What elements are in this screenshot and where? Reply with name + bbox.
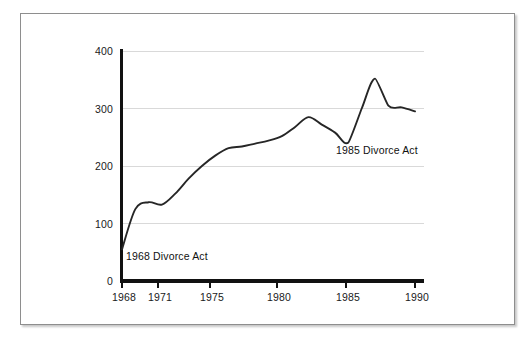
figure-root: 400 300 200 100 0 1968 bbox=[0, 0, 532, 339]
x-tick-label-1975: 1975 bbox=[200, 291, 224, 303]
chart-canvas: 400 300 200 100 0 1968 bbox=[0, 0, 532, 339]
x-tick-label-1968: 1968 bbox=[112, 291, 136, 303]
annotations: 1968 Divorce Act 1985 Divorce Act bbox=[126, 144, 418, 262]
y-tick-label-100: 100 bbox=[95, 218, 113, 230]
y-tick-label-0: 0 bbox=[107, 275, 113, 287]
x-tick-label-1980: 1980 bbox=[267, 291, 291, 303]
y-tick-label-400: 400 bbox=[95, 45, 113, 57]
y-axis-labels: 400 300 200 100 0 bbox=[95, 45, 113, 287]
line-chart: 400 300 200 100 0 1968 bbox=[0, 0, 532, 339]
x-axis-labels: 1968 1971 1975 1980 1985 1990 bbox=[112, 291, 429, 303]
y-tick-label-200: 200 bbox=[95, 160, 113, 172]
annotation-1985-divorce-act: 1985 Divorce Act bbox=[336, 144, 418, 156]
annotation-1968-divorce-act: 1968 Divorce Act bbox=[126, 250, 208, 262]
gridlines bbox=[122, 51, 424, 224]
x-tick-label-1971: 1971 bbox=[148, 291, 172, 303]
x-tick-label-1985: 1985 bbox=[336, 291, 360, 303]
x-tick-label-1990: 1990 bbox=[405, 291, 429, 303]
y-tick-label-300: 300 bbox=[95, 103, 113, 115]
